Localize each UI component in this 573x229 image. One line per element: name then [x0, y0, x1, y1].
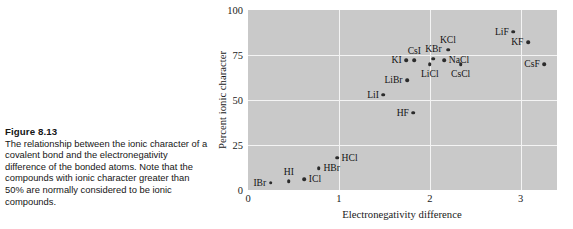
data-point-label: HCl [342, 153, 358, 163]
y-tick-label: 75 [233, 50, 244, 61]
data-point-label: CsF [524, 59, 539, 69]
data-point [404, 59, 408, 63]
data-point [446, 48, 450, 52]
data-point [287, 179, 291, 183]
data-point-label: ICl [309, 174, 321, 184]
data-point [443, 59, 447, 63]
data-point [459, 62, 463, 66]
gridline-horizontal [248, 145, 557, 146]
data-point-label: IBr [253, 178, 266, 188]
data-point [526, 41, 530, 45]
data-point [317, 167, 321, 171]
y-tick-label: 100 [227, 5, 243, 16]
data-point [412, 111, 416, 115]
data-point [413, 59, 417, 63]
data-point [432, 57, 436, 61]
x-tick-label: 3 [518, 193, 523, 204]
x-tick-label: 0 [245, 193, 250, 204]
data-point [428, 62, 432, 66]
data-point [405, 78, 409, 82]
data-point [269, 181, 273, 185]
y-axis-label: Percent ionic character [216, 51, 228, 149]
data-point-label: LiI [367, 90, 379, 100]
data-point-label: CsI [408, 46, 421, 56]
x-axis-label: Electronegativity difference [342, 208, 461, 220]
data-point-label: KF [511, 38, 523, 48]
data-point [303, 177, 307, 181]
data-point [512, 30, 516, 34]
data-point-label: HBr [323, 164, 340, 174]
data-point-label: KCl [440, 36, 456, 46]
data-point [382, 93, 386, 97]
data-point-label: KI [392, 56, 402, 66]
y-tick-label: 50 [233, 95, 244, 106]
x-tick-label: 2 [427, 193, 432, 204]
data-point-label: LiCl [421, 69, 439, 79]
y-tick-label: 0 [238, 185, 243, 196]
data-point-label: LiBr [384, 75, 402, 85]
data-point-label: HF [397, 108, 409, 118]
gridline-horizontal [248, 100, 557, 101]
data-point-label: CsCl [451, 69, 470, 79]
gridline-horizontal [248, 55, 557, 56]
x-tick-label: 1 [336, 193, 341, 204]
data-point-label: LiF [495, 27, 509, 37]
data-point [335, 156, 339, 160]
figure-container: Figure 8.13 The relationship between the… [0, 0, 573, 229]
data-point [542, 62, 546, 66]
data-point-label: HI [284, 167, 294, 177]
y-tick-label: 25 [233, 140, 244, 151]
data-point-label: KBr [425, 45, 442, 55]
scatter-chart: 0123 0255075100 IBrHIIClHBrHClHFLiILiBrK… [0, 0, 573, 229]
